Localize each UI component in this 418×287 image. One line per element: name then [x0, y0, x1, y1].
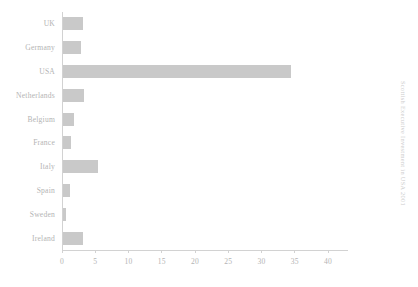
bar-row: [63, 179, 347, 203]
x-axis-tick-mark: [161, 250, 162, 253]
y-axis-tick-label: Ireland: [0, 226, 58, 250]
x-axis-tick-mark: [62, 250, 63, 253]
bar-usa: [63, 65, 291, 78]
bar-netherlands: [63, 89, 84, 102]
bar-chart-figure: UK Germany USA Netherlands Belgium Franc…: [0, 0, 418, 287]
x-axis-tick-mark: [294, 250, 295, 253]
x-axis-tick-mark: [228, 250, 229, 253]
x-axis-tick-label: 10: [125, 257, 133, 266]
y-axis-tick-label: Belgium: [0, 107, 58, 131]
y-axis-tick-label: Sweden: [0, 202, 58, 226]
x-axis-tick: 10: [125, 250, 133, 266]
y-axis-tick-labels: UK Germany USA Netherlands Belgium Franc…: [0, 12, 58, 250]
bar-row: [63, 202, 347, 226]
y-axis-tick-label: Spain: [0, 179, 58, 203]
x-axis-tick: 25: [224, 250, 232, 266]
bar-series: [63, 12, 347, 250]
x-axis-tick: 40: [324, 250, 332, 266]
x-axis-tick-label: 40: [324, 257, 332, 266]
y-axis-tick-label: France: [0, 131, 58, 155]
bar-uk: [63, 17, 83, 30]
x-axis-tick-mark: [95, 250, 96, 253]
bar-row: [63, 83, 347, 107]
y-axis-tick-label: UK: [0, 12, 58, 36]
bar-row: [63, 60, 347, 84]
y-axis-tick-label: Germany: [0, 36, 58, 60]
x-axis-tick-label: 5: [93, 257, 97, 266]
x-axis-tick-label: 20: [191, 257, 199, 266]
bar-row: [63, 12, 347, 36]
x-axis-tick: 0: [60, 250, 64, 266]
x-axis-tick-label: 35: [291, 257, 299, 266]
x-axis-tick: 30: [258, 250, 266, 266]
bar-spain: [63, 184, 70, 197]
side-caption-text: Scottish Executive Investment in USA 200…: [400, 81, 407, 206]
bar-row: [63, 36, 347, 60]
y-axis-tick-label: USA: [0, 60, 58, 84]
y-axis-tick-label: Netherlands: [0, 83, 58, 107]
x-axis-tick: 5: [93, 250, 97, 266]
x-axis-tick-labels: 0510152025303540: [62, 250, 348, 272]
bar-italy: [63, 160, 98, 173]
x-axis-tick-label: 25: [224, 257, 232, 266]
x-axis-tick: 35: [291, 250, 299, 266]
side-caption: Scottish Executive Investment in USA 200…: [392, 0, 414, 287]
y-axis-tick-label: Italy: [0, 155, 58, 179]
bar-france: [63, 136, 71, 149]
x-axis-tick-mark: [261, 250, 262, 253]
bar-row: [63, 107, 347, 131]
bar-germany: [63, 41, 81, 54]
x-axis-tick-mark: [328, 250, 329, 253]
x-axis-tick: 15: [158, 250, 166, 266]
x-axis-tick-label: 0: [60, 257, 64, 266]
bar-ireland: [63, 232, 83, 245]
bar-row: [63, 155, 347, 179]
bar-row: [63, 131, 347, 155]
x-axis-tick-label: 30: [258, 257, 266, 266]
x-axis-tick-label: 15: [158, 257, 166, 266]
x-axis-tick: 20: [191, 250, 199, 266]
bar-belgium: [63, 113, 74, 126]
x-axis-tick-mark: [195, 250, 196, 253]
bar-row: [63, 226, 347, 250]
x-axis-tick-mark: [128, 250, 129, 253]
bar-sweden: [63, 208, 66, 221]
